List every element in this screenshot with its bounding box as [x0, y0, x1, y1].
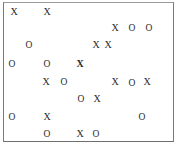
x-mark: X [93, 94, 100, 104]
o-mark: O [61, 77, 68, 87]
o-mark: O [26, 40, 33, 50]
x-mark: X [42, 77, 49, 87]
x-mark: X [111, 23, 118, 33]
x-mark: X [104, 40, 111, 50]
x-mark: X [10, 7, 17, 17]
x-mark: X [143, 77, 150, 87]
x-mark: X [76, 129, 83, 139]
o-mark: O [146, 23, 153, 33]
o-mark: O [78, 94, 85, 104]
x-mark: X [111, 77, 118, 87]
x-mark: X [43, 7, 50, 17]
x-mark: X [76, 59, 83, 69]
o-mark: O [139, 112, 146, 122]
o-mark: O [9, 59, 16, 69]
o-mark: O [93, 129, 100, 139]
x-mark: X [43, 112, 50, 122]
o-mark: O [44, 59, 51, 69]
o-mark: O [129, 23, 136, 33]
x-mark: X [92, 40, 99, 50]
o-mark: O [9, 112, 16, 122]
o-mark: O [129, 78, 136, 88]
o-mark: O [44, 129, 51, 139]
